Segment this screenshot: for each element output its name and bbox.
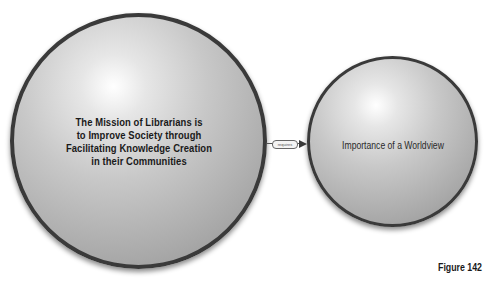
concept-node-worldview-label: Importance of a Worldview — [327, 139, 458, 151]
arrow-right-icon — [299, 140, 307, 148]
figure-caption: Figure 142 — [438, 262, 482, 273]
label-line: The Mission of Librarians is — [52, 116, 224, 129]
concept-node-worldview[interactable]: Importance of a Worldview — [307, 56, 478, 227]
label-line: in their Communities — [52, 155, 224, 168]
concept-node-mission-label: The Mission of Librarians is to Improve … — [52, 116, 224, 168]
connector-label[interactable]: requires — [272, 140, 298, 149]
label-line: Facilitating Knowledge Creation — [52, 142, 224, 155]
label-line: to Improve Society through — [52, 129, 224, 142]
concept-node-mission[interactable]: The Mission of Librarians is to Improve … — [10, 13, 267, 269]
